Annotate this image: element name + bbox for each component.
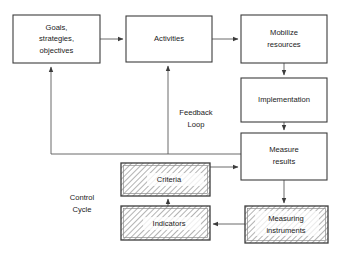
label-feedback-loop: Feedback Loop [179, 108, 213, 129]
feedback-loop-line-1: Feedback [179, 108, 213, 117]
node-activities[interactable]: Activities [126, 16, 212, 62]
node-goals[interactable]: Goals, strategies, objectives [13, 15, 100, 63]
control-cycle-line-2: Cycle [73, 205, 92, 214]
node-mobilize-resources-label-line-2: resources [267, 40, 301, 49]
node-implementation-label: Implementation [258, 95, 310, 104]
node-measuring-instruments[interactable]: Measuring instruments [245, 206, 328, 243]
node-measure-results-label-line-2: results [273, 157, 296, 166]
node-indicators-label: Indicators [153, 219, 186, 228]
node-mobilize-resources[interactable]: Mobilize resources [241, 15, 327, 63]
node-indicators[interactable]: Indicators [121, 206, 210, 240]
node-measuring-instruments-label-line-1: Measuring [268, 214, 303, 223]
node-activities-label: Activities [154, 34, 184, 43]
node-measure-results[interactable]: Measure results [241, 133, 327, 180]
label-control-cycle: Control Cycle [70, 193, 95, 214]
node-goals-label-line-1: Goals, [46, 23, 68, 32]
node-goals-label-line-2: strategies, [39, 34, 74, 43]
control-cycle-diagram: Goals, strategies, objectives Activities… [0, 0, 343, 255]
node-mobilize-resources-label-line-1: Mobilize [270, 28, 298, 37]
node-measuring-instruments-label-line-2: instruments [266, 226, 305, 235]
feedback-loop-line-2: Loop [188, 120, 205, 129]
node-goals-label-line-3: objectives [40, 46, 74, 55]
node-measure-results-label-line-1: Measure [269, 145, 299, 154]
node-implementation[interactable]: Implementation [241, 78, 327, 122]
diagram-canvas: Goals, strategies, objectives Activities… [0, 0, 343, 255]
control-cycle-line-1: Control [70, 193, 95, 202]
node-criteria-label: Criteria [157, 175, 182, 184]
node-criteria[interactable]: Criteria [121, 163, 210, 196]
